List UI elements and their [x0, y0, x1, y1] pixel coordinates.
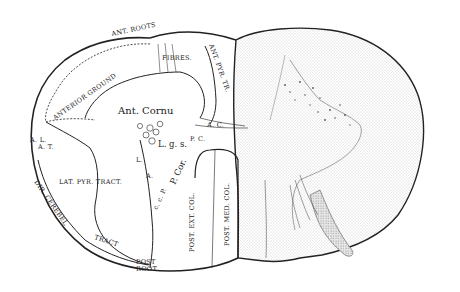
label-ant-pyr-tr: ANT. PYR. TR.	[207, 42, 232, 93]
label-l: L.	[136, 156, 143, 164]
label-post-med-col: POST. MED. COL.	[223, 183, 231, 246]
label-anterior-ground: ANTERIOR GROUND	[51, 72, 118, 122]
label-tract: TRACT	[93, 233, 119, 248]
label-a-c: A. C.	[206, 121, 224, 129]
label-l-g-s: L. g. s.	[158, 139, 187, 149]
right-half-stippled	[234, 28, 424, 261]
label-c-c-p: c. c. P.	[152, 187, 169, 211]
label-p-cor: P. Cor.	[168, 157, 188, 186]
label-a: A.	[145, 172, 153, 180]
spinal-cord-diagram: ANT. ROOTS FIBRES. ANT. PYR. TR. ANTERIO…	[0, 0, 460, 292]
label-post-ext-col: POST. EXT. COL.	[188, 192, 196, 252]
label-fibres: FIBRES.	[162, 54, 192, 62]
label-ant-cornu: Ant. Cornu	[117, 105, 174, 116]
label-a-t: A. T.	[37, 143, 54, 151]
label-ant-roots: ANT. ROOTS	[110, 21, 157, 38]
label-lat-pyr-tract: LAT. PYR. TRACT.	[59, 178, 122, 186]
label-post-root-2: ROOT	[136, 265, 157, 273]
label-p-c: P. C.	[190, 135, 206, 143]
